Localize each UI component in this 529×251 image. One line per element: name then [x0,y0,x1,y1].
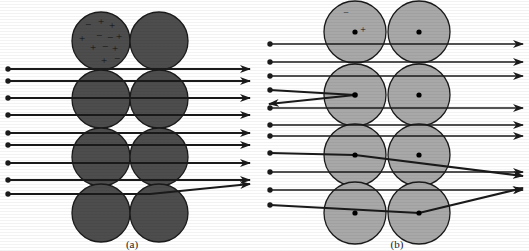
nucleus [352,210,357,215]
panel-a: − + + + − − + + − + + − [0,0,264,251]
charge-minus: − [102,40,108,52]
charge-plus: + [98,15,104,27]
charge-plus: + [79,32,85,44]
atom [72,184,130,242]
nucleus [416,152,421,157]
atom [72,128,130,186]
deflected-alpha-ray [8,184,250,194]
charge-plus: + [90,41,96,53]
charge-minus: − [114,52,120,64]
charge-plus: + [360,24,366,35]
panel-b: − + (b) [265,0,529,251]
charge-plus: + [101,54,107,66]
atom [130,128,188,186]
nucleus [416,92,421,97]
atom [130,12,188,70]
charge-minus: − [85,18,91,30]
panel-a-canvas: − + + + − − + + − + + − [0,0,264,251]
panel-a-caption: (a) [0,238,264,250]
panel-b-caption: (b) [265,238,529,250]
charge-plus: + [116,30,122,42]
scattering-figure: − + + + − − + + − + + − [0,0,529,251]
atom [72,70,130,128]
nucleus [352,92,358,98]
charge-minus: − [343,7,349,18]
ray-group-a [8,69,250,180]
deflected-ray-group-a [8,184,250,194]
atom-grid-b [324,1,450,244]
atom [130,70,188,128]
nucleus [416,29,421,34]
panel-b-canvas: − + [265,0,529,251]
nucleus [352,29,357,34]
nucleus [416,210,421,215]
nucleus [352,152,357,157]
charge-plus: + [109,19,115,31]
